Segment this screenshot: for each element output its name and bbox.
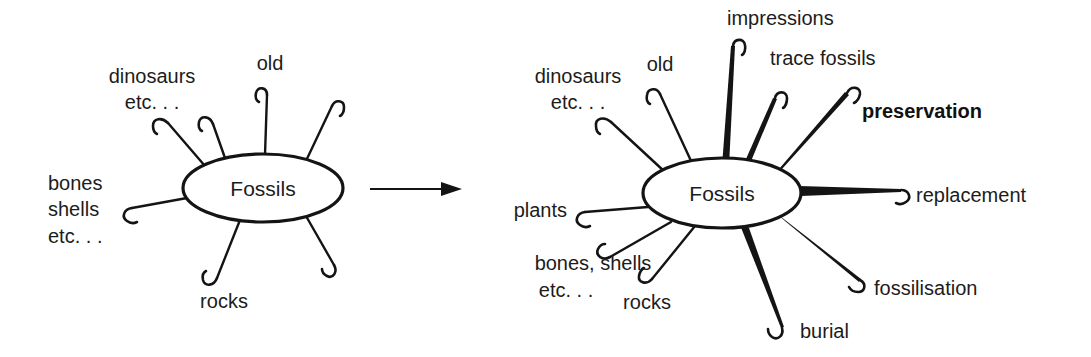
concept-map-figure: Fossils dinosaurs etc. . . old bones she… bbox=[0, 0, 1091, 357]
after-map-center-label: Fossils bbox=[689, 182, 754, 205]
spoke-rocks[interactable] bbox=[203, 220, 240, 285]
spoke-bones-shells[interactable] bbox=[124, 198, 187, 223]
label-rocks: rocks bbox=[623, 291, 671, 313]
label-old: old bbox=[647, 53, 674, 75]
after-map: Fossils dinosaurs etc. . . old impressio… bbox=[514, 7, 1027, 342]
spoke-fossilisation[interactable] bbox=[776, 213, 864, 292]
spoke-impressions[interactable] bbox=[722, 40, 745, 166]
spoke-unlabelled-upper-right[interactable] bbox=[305, 101, 344, 163]
spoke-dinosaurs[interactable] bbox=[596, 119, 665, 172]
spoke-replacement[interactable] bbox=[799, 186, 909, 204]
before-map: Fossils dinosaurs etc. . . old bones she… bbox=[48, 52, 344, 312]
spoke-dinosaurs[interactable] bbox=[153, 119, 205, 166]
label-bones-etc-line3: etc. . . bbox=[48, 225, 102, 247]
transition-arrow bbox=[370, 182, 462, 196]
label-old: old bbox=[257, 52, 284, 74]
label-fossilisation: fossilisation bbox=[874, 277, 977, 299]
label-rocks: rocks bbox=[200, 290, 248, 312]
spoke-plants[interactable] bbox=[577, 207, 648, 227]
arrow-head-icon bbox=[441, 182, 462, 196]
spoke-old[interactable] bbox=[256, 88, 267, 155]
label-shells-line2: shells bbox=[48, 198, 99, 220]
label-burial: burial bbox=[800, 320, 849, 342]
label-plants: plants bbox=[514, 199, 567, 221]
label-preservation: preservation bbox=[862, 100, 982, 122]
spoke-unlabelled-upper-left[interactable] bbox=[199, 117, 225, 158]
label-replacement: replacement bbox=[916, 184, 1027, 206]
label-dinosaurs-line1: dinosaurs bbox=[535, 65, 622, 87]
spoke-trace-fossils[interactable] bbox=[742, 92, 787, 168]
label-trace-fossils: trace fossils bbox=[770, 47, 876, 69]
label-dinosaurs-line2: etc. . . bbox=[551, 91, 605, 113]
spoke-unlabelled-lower-right[interactable] bbox=[306, 216, 335, 277]
label-dinosaurs-line1: dinosaurs bbox=[109, 65, 196, 87]
label-bones-shells-line1: bones, shells bbox=[535, 252, 652, 274]
label-bones-line1: bones bbox=[48, 172, 103, 194]
before-map-center-label: Fossils bbox=[230, 177, 295, 200]
spoke-old[interactable] bbox=[647, 89, 692, 163]
spoke-burial[interactable] bbox=[740, 225, 784, 338]
figure-canvas: Fossils dinosaurs etc. . . old bones she… bbox=[0, 0, 1091, 357]
label-bones-shells-line2: etc. . . bbox=[539, 279, 593, 301]
label-dinosaurs-line2: etc. . . bbox=[125, 91, 179, 113]
label-impressions: impressions bbox=[727, 7, 834, 29]
